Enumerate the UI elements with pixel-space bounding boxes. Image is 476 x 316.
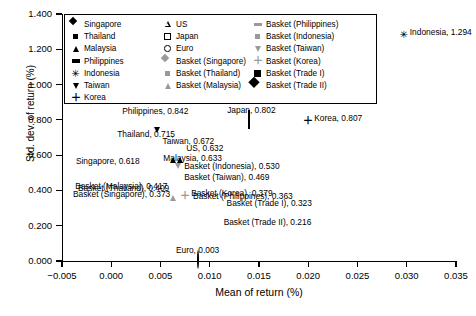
y-tick-label: 1.400 [6, 8, 52, 19]
square-marker-icon [165, 71, 170, 76]
legend-item-thailand[interactable]: Thailand [69, 30, 124, 42]
legend-label: Malaysia [82, 44, 116, 53]
legend-marker [161, 21, 174, 27]
x-tick-label: −0.005 [37, 270, 87, 281]
legend-label: Basket (Singapore) [174, 57, 246, 66]
legend-item-taiwan[interactable]: Taiwan [69, 79, 124, 91]
legend-item-euro[interactable]: Euro [161, 43, 246, 55]
x-tick-mark [308, 261, 309, 267]
legend-item-basket-trade-i[interactable]: Basket (Trade I) [251, 67, 338, 79]
square-b-marker-icon [254, 70, 261, 77]
legend-label: Korea [82, 93, 106, 102]
dash-marker-icon [72, 59, 80, 62]
tri-marker-icon [165, 83, 171, 89]
legend-label: Indonesia [82, 69, 120, 78]
legend-marker: ＋ [69, 95, 82, 101]
legend-item-indonesia[interactable]: ✳Indonesia [69, 67, 124, 79]
legend-label: Thailand [82, 32, 115, 41]
legend-item-basket-philippines[interactable]: Basket (Philippines) [251, 18, 338, 30]
osquare-marker-icon [164, 33, 171, 40]
legend-marker [251, 23, 264, 26]
legend-item-singapore[interactable]: Singapore [69, 18, 124, 30]
legend-item-basket-taiwan[interactable]: Basket (Taiwan) [251, 43, 338, 55]
x-tick-label: 0.015 [234, 270, 284, 281]
legend-item-japan[interactable]: Japan [161, 30, 246, 42]
legend-item-basket-thailand[interactable]: Basket (Thailand) [161, 67, 246, 79]
data-point-basket-korea[interactable]: ＋ [180, 185, 190, 203]
legend-item-philippines[interactable]: Philippines [69, 55, 124, 67]
legend-item-basket-korea[interactable]: ＋Basket (Korea) [251, 55, 338, 67]
legend-marker [161, 71, 174, 76]
legend-label: Basket (Korea) [264, 57, 321, 66]
dash-marker-icon [254, 23, 262, 26]
dtri-marker-icon [255, 46, 261, 52]
plus-marker-icon: ＋ [180, 190, 190, 201]
legend-label: US [174, 20, 187, 29]
y-tick-mark [56, 119, 62, 120]
diamond-marker-icon [160, 54, 168, 62]
legend-label: Japan [174, 32, 198, 41]
legend-label: Euro [174, 44, 193, 53]
legend-item-basket-singapore[interactable]: Basket (Singapore) [161, 55, 246, 67]
data-point-label: Singapore, 0.618 [76, 157, 140, 166]
data-point-label: Japan, 0.802 [227, 106, 275, 115]
plus-marker-icon: ＋ [253, 58, 263, 64]
x-tick-mark [160, 261, 161, 267]
legend-marker [69, 21, 82, 27]
data-point-indonesia[interactable]: ✳ [400, 24, 408, 42]
dtri-marker-icon [73, 83, 79, 89]
data-point-basket-malaysia[interactable] [170, 178, 176, 196]
legend-label: Basket (Trade I) [264, 69, 324, 78]
square-marker-icon [73, 34, 78, 39]
data-point-label: US, 0.632 [186, 144, 223, 153]
x-tick-label: 0.010 [185, 270, 235, 281]
legend-label: Basket (Philippines) [264, 20, 338, 29]
y-tick-label: 0.000 [6, 255, 52, 266]
diamond-marker-icon [68, 17, 76, 25]
legend-marker [161, 33, 174, 40]
data-point-label: Basket (Trade II), 0.216 [224, 218, 312, 227]
legend-marker [69, 34, 82, 39]
legend-item-malaysia[interactable]: Malaysia [69, 43, 124, 55]
legend-marker [161, 45, 174, 52]
legend-marker: ＋ [251, 58, 264, 64]
data-point-label: Basket (Indonesia), 0.530 [184, 162, 279, 171]
x-tick-label: 0.030 [382, 270, 432, 281]
data-point-label: Basket (Taiwan), 0.469 [184, 173, 269, 182]
x-tick-mark [455, 261, 456, 267]
plus-marker-icon: ＋ [71, 95, 81, 101]
x-tick-label: 0.025 [333, 270, 383, 281]
legend-item-basket-trade-ii[interactable]: Basket (Trade II) [251, 79, 338, 91]
x-tick-mark [406, 261, 407, 267]
legend-item-basket-indonesia[interactable]: Basket (Indonesia) [251, 30, 338, 42]
x-tick-mark [357, 261, 358, 267]
legend-label: Taiwan [82, 81, 110, 90]
star-marker-icon: ✳ [400, 29, 408, 40]
y-axis-line [62, 14, 63, 262]
x-tick-mark [111, 261, 112, 267]
legend-marker [251, 34, 264, 39]
data-point-korea[interactable]: ＋ [303, 110, 313, 128]
x-tick-mark [258, 261, 259, 267]
legend-marker [69, 46, 82, 52]
data-point-label: Philippines, 0.842 [122, 107, 188, 116]
tri-marker-icon [170, 178, 176, 201]
y-tick-label: 0.200 [6, 220, 52, 231]
legend-column: USJapanEuroBasket (Singapore)Basket (Tha… [161, 18, 246, 92]
data-point-label: Basket (Trade I), 0.323 [227, 199, 312, 208]
x-axis-title: Mean of return (%) [62, 286, 456, 298]
legend-label: Basket (Thailand) [174, 69, 240, 78]
x-tick-label: 0.005 [136, 270, 186, 281]
legend-marker [251, 46, 264, 52]
x-tick-label: 0.000 [86, 270, 136, 281]
legend-label: Singapore [82, 20, 121, 29]
y-axis-title: Std. dev. of return (%) [25, 34, 36, 194]
x-tick-label: 0.020 [283, 270, 333, 281]
legend-item-us[interactable]: US [161, 18, 246, 30]
legend-marker [161, 58, 174, 64]
legend-item-korea[interactable]: ＋Korea [69, 92, 124, 104]
y-tick-mark [56, 225, 62, 226]
data-point-label: Korea, 0.807 [314, 114, 362, 123]
legend-item-basket-malaysia[interactable]: Basket (Malaysia) [161, 79, 246, 91]
x-tick-mark [209, 261, 210, 267]
